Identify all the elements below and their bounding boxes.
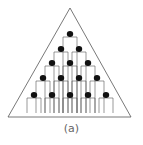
head-dot (49, 60, 55, 66)
head-dot (49, 92, 55, 98)
head-dot (94, 75, 100, 81)
head-dot (31, 92, 37, 98)
person-figure (45, 92, 59, 113)
person-figure (63, 31, 77, 113)
head-dot (67, 60, 73, 66)
head-dot (58, 75, 64, 81)
head-dot (67, 92, 73, 98)
person-figure (36, 75, 50, 113)
head-dot (76, 75, 82, 81)
person-figure (63, 92, 77, 113)
head-dot (103, 92, 109, 98)
person-figure (99, 92, 113, 113)
person-figure (72, 75, 86, 113)
person-figure (45, 60, 59, 113)
head-dot (85, 92, 91, 98)
figures-group (27, 31, 113, 113)
person-figure (81, 92, 95, 113)
person-figure (54, 75, 68, 113)
figure-caption: (a) (0, 122, 143, 135)
person-figure (27, 92, 41, 113)
head-dot (67, 31, 73, 37)
person-figure (90, 75, 104, 113)
head-dot (76, 46, 82, 52)
head-dot (85, 60, 91, 66)
person-figure (81, 60, 95, 113)
head-dot (58, 46, 64, 52)
person-figure (63, 60, 77, 113)
head-dot (40, 75, 46, 81)
